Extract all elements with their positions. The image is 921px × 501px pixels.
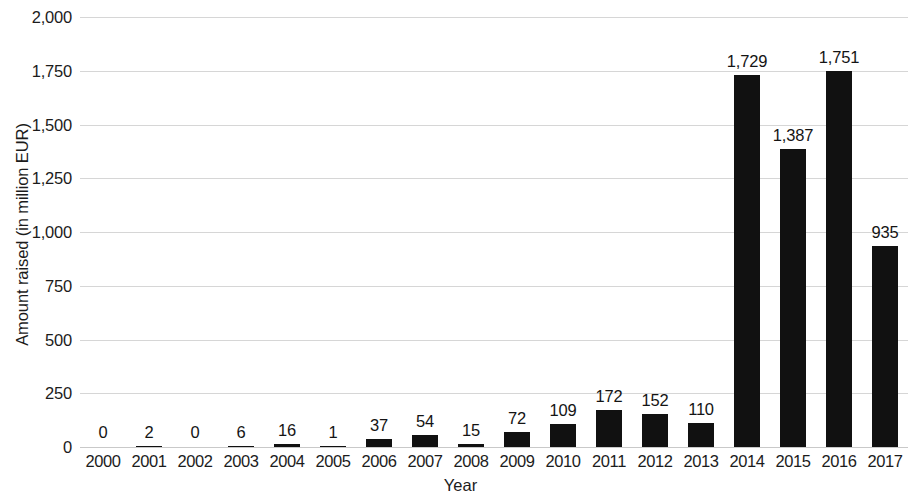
bar-value-label: 16: [278, 421, 296, 440]
x-axis-tick-label: 2003: [223, 452, 258, 471]
x-axis-tick-label: 2013: [683, 452, 718, 471]
bar-slot: 54: [402, 17, 448, 447]
bar-slot: 109: [540, 17, 586, 447]
x-axis-tick-label: 2006: [361, 452, 396, 471]
x-axis-tick-label: 2008: [453, 452, 488, 471]
x-axis-tick-label: 2010: [545, 452, 580, 471]
gridline: [80, 447, 908, 448]
bar-value-label: 15: [462, 421, 480, 440]
x-axis-tick-label: 2009: [499, 452, 534, 471]
bar[interactable]: [136, 446, 162, 448]
bar[interactable]: [780, 149, 806, 447]
y-axis-tick-labels: 2,0001,7501,5001,2501,0007505002500: [0, 17, 72, 447]
bar-slot: 152: [632, 17, 678, 447]
x-axis-tick-label: 2016: [821, 452, 856, 471]
bar[interactable]: [412, 435, 438, 447]
bar-value-label: 0: [191, 423, 200, 442]
bar-slot: 110: [678, 17, 724, 447]
bar-slot: 0: [80, 17, 126, 447]
x-axis-tick-label: 2002: [177, 452, 212, 471]
bar-value-label: 110: [688, 400, 714, 419]
x-axis-tick-label: 2005: [315, 452, 350, 471]
y-axis-tick-label: 750: [4, 276, 72, 295]
x-axis-title: Year: [0, 476, 921, 495]
bar[interactable]: [228, 446, 254, 448]
x-axis-tick-label: 2001: [131, 452, 166, 471]
bar[interactable]: [596, 410, 622, 447]
y-axis-tick-label: 1,750: [4, 61, 72, 80]
x-axis-tick-label: 2000: [85, 452, 120, 471]
bar[interactable]: [274, 444, 300, 447]
bar[interactable]: [366, 439, 392, 447]
bar[interactable]: [458, 444, 484, 447]
bar[interactable]: [550, 424, 576, 447]
x-axis-tick-label: 2004: [269, 452, 304, 471]
bar-slot: 1: [310, 17, 356, 447]
bar[interactable]: [872, 246, 898, 447]
x-axis-tick-label: 2015: [775, 452, 810, 471]
bar[interactable]: [642, 414, 668, 447]
x-axis-tick-label: 2012: [637, 452, 672, 471]
bar-value-label: 0: [99, 423, 108, 442]
x-axis-tick-label: 2017: [867, 452, 902, 471]
bar-value-label: 72: [508, 409, 526, 428]
x-axis-tick-label: 2014: [729, 452, 764, 471]
bar[interactable]: [688, 423, 714, 447]
bar[interactable]: [320, 446, 346, 448]
bar-value-label: 935: [872, 223, 899, 242]
bar-value-label: 37: [370, 416, 388, 435]
bar-value-label: 54: [416, 412, 434, 431]
bar-slot: 6: [218, 17, 264, 447]
x-axis-tick-label: 2011: [592, 452, 626, 471]
y-axis-tick-label: 1,000: [4, 223, 72, 242]
y-axis-tick-label: 1,250: [4, 169, 72, 188]
y-axis-tick-label: 250: [4, 384, 72, 403]
x-axis-tick-label: 2007: [407, 452, 442, 471]
bar-value-label: 2: [145, 423, 154, 442]
bar-chart: Amount raised (in million EUR) 2,0001,75…: [0, 0, 921, 501]
bar-slot: 16: [264, 17, 310, 447]
bar[interactable]: [504, 432, 530, 447]
plot-area: 0206161375415721091721521101,7291,3871,7…: [80, 17, 908, 447]
bar-slot: 1,751: [816, 17, 862, 447]
bar-value-label: 109: [550, 401, 577, 420]
bar[interactable]: [826, 71, 852, 447]
bar-value-label: 1: [329, 423, 338, 442]
bar-slot: 935: [862, 17, 908, 447]
y-axis-tick-label: 0: [4, 438, 72, 457]
bar-slot: 172: [586, 17, 632, 447]
bar-value-label: 1,751: [819, 48, 859, 67]
bar-value-label: 1,729: [727, 52, 767, 71]
bar-value-label: 152: [642, 391, 669, 410]
bar-slot: 37: [356, 17, 402, 447]
x-axis-tick-labels: 2000200120022003200420052006200720082009…: [80, 452, 908, 476]
y-axis-tick-label: 2,000: [4, 8, 72, 27]
bar-slot: 0: [172, 17, 218, 447]
bar-slot: 2: [126, 17, 172, 447]
y-axis-tick-label: 500: [4, 330, 72, 349]
bar[interactable]: [734, 75, 760, 447]
y-axis-tick-label: 1,500: [4, 115, 72, 134]
bar-value-label: 1,387: [773, 126, 813, 145]
bar-value-label: 6: [237, 423, 246, 442]
bar-slot: 1,387: [770, 17, 816, 447]
bar-slot: 1,729: [724, 17, 770, 447]
bar-value-label: 172: [596, 387, 623, 406]
bar-slot: 72: [494, 17, 540, 447]
bar-slot: 15: [448, 17, 494, 447]
